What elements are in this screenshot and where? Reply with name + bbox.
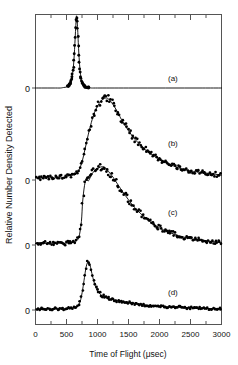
data-point — [149, 219, 152, 222]
data-point — [174, 231, 177, 234]
data-point — [83, 180, 86, 183]
data-point — [93, 279, 96, 282]
data-point — [99, 163, 102, 166]
x-tick-label-1000: 1000 — [89, 330, 107, 339]
x-tick-label-2000: 2000 — [151, 330, 169, 339]
data-point — [93, 114, 96, 117]
data-point — [207, 173, 210, 176]
data-point — [155, 156, 158, 159]
data-point — [91, 274, 94, 277]
data-point — [131, 135, 134, 138]
data-point — [110, 172, 113, 175]
data-point — [99, 291, 102, 294]
y-axis-title: Relative Number Density Detected — [4, 106, 14, 244]
data-point — [39, 179, 42, 182]
data-point — [52, 177, 55, 180]
data-point — [44, 240, 47, 243]
data-point — [104, 95, 107, 98]
data-point — [77, 170, 80, 173]
data-point — [122, 119, 125, 122]
data-point — [78, 68, 81, 71]
data-point — [76, 27, 79, 30]
data-point — [130, 199, 133, 202]
data-point — [82, 289, 85, 292]
data-point — [126, 193, 129, 196]
data-point — [99, 104, 102, 107]
data-point — [108, 100, 111, 103]
data-point — [197, 169, 200, 172]
data-point — [103, 167, 106, 170]
x-axis-title: Time of Flight (μsec) — [89, 349, 166, 359]
x-tick-label-500: 500 — [60, 330, 74, 339]
data-point — [75, 17, 78, 20]
data-point — [96, 168, 99, 171]
data-point — [159, 224, 162, 227]
data-point — [78, 304, 81, 307]
data-point — [82, 283, 85, 286]
data-point — [97, 100, 100, 103]
data-point — [70, 75, 73, 78]
x-tick-label-0: 0 — [33, 330, 38, 339]
data-point — [88, 263, 91, 266]
data-point — [64, 244, 67, 247]
data-point — [73, 52, 76, 55]
data-point — [77, 35, 80, 38]
data-point — [136, 137, 139, 140]
data-point — [109, 176, 112, 179]
data-point — [78, 61, 81, 64]
data-point — [86, 138, 89, 141]
data-point — [58, 177, 61, 180]
data-point — [81, 202, 84, 205]
data-point — [211, 239, 214, 242]
zero-label-a: 0 — [25, 84, 30, 94]
zero-label-c: 0 — [25, 241, 30, 251]
data-point — [142, 213, 145, 216]
data-point — [219, 172, 222, 175]
data-point — [218, 240, 221, 243]
data-point — [121, 121, 124, 124]
y-zero-labels: 0000 — [25, 84, 30, 316]
time-of-flight-figure: 050010001500200025003000 0000 (a)(b)(c)(… — [0, 0, 238, 365]
data-point — [219, 308, 222, 311]
data-point — [102, 294, 105, 297]
data-point — [90, 173, 93, 176]
data-point — [76, 20, 79, 23]
data-point — [132, 204, 135, 207]
axis-ticks — [36, 15, 222, 325]
series-b — [35, 94, 222, 181]
data-point — [80, 295, 83, 298]
data-point — [172, 234, 175, 237]
data-point — [78, 236, 81, 239]
data-point — [47, 178, 50, 181]
data-point — [105, 100, 108, 103]
data-point — [83, 148, 86, 151]
data-point — [87, 86, 90, 89]
data-point — [78, 300, 81, 303]
series-d — [36, 260, 222, 312]
data-point — [90, 125, 93, 128]
data-point — [88, 128, 91, 131]
data-point — [81, 160, 84, 163]
data-point — [71, 73, 74, 76]
data-point — [139, 209, 142, 212]
data-point — [74, 36, 77, 39]
data-point — [83, 195, 86, 198]
data-point — [107, 94, 110, 97]
series-a — [36, 16, 222, 90]
data-point — [131, 137, 134, 140]
data-point — [47, 175, 50, 178]
data-point — [65, 176, 68, 179]
data-point — [80, 223, 83, 226]
data-point — [215, 241, 218, 244]
data-point — [133, 141, 136, 144]
data-point — [73, 241, 76, 244]
data-point — [96, 288, 99, 291]
data-point — [174, 164, 177, 167]
data-point — [79, 166, 82, 169]
data-point — [79, 77, 82, 80]
data-point — [73, 44, 76, 47]
zero-label-b: 0 — [25, 176, 30, 186]
data-point — [92, 167, 95, 170]
data-point — [93, 283, 96, 286]
data-point — [49, 241, 52, 244]
